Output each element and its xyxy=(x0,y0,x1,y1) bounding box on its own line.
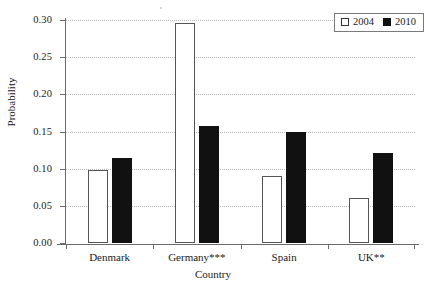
y-tick-label: 0.30 xyxy=(12,15,52,26)
legend-item-2010[interactable]: 2010 xyxy=(383,17,416,28)
y-tick-label: 0.15 xyxy=(12,127,52,138)
bar-Germany-2010 xyxy=(199,126,219,243)
gridline xyxy=(66,57,415,58)
y-tick-label: 0.25 xyxy=(12,52,52,63)
bar-Spain-2004 xyxy=(262,176,282,243)
y-tick-label: 0.05 xyxy=(12,201,52,212)
bar-UK-2004 xyxy=(349,198,369,243)
bar-Spain-2010 xyxy=(286,132,306,243)
y-axis-title: Probability xyxy=(5,47,17,157)
x-tick-mark xyxy=(328,244,329,249)
legend: 2004 2010 xyxy=(334,13,424,32)
bar-Denmark-2010 xyxy=(112,158,132,243)
legend-item-2004[interactable]: 2004 xyxy=(341,17,374,28)
legend-swatch-2004-icon xyxy=(341,18,349,26)
axis-line-bottom xyxy=(57,244,419,245)
gridline xyxy=(66,94,415,95)
x-tick-label: UK** xyxy=(311,251,426,264)
legend-label-2004: 2004 xyxy=(353,17,374,28)
y-tick-label: 0.20 xyxy=(12,89,52,100)
y-tick-label: 0.10 xyxy=(12,164,52,175)
gridline xyxy=(66,132,415,133)
x-tick-mark xyxy=(241,244,242,249)
x-tick-mark xyxy=(414,244,415,249)
legend-label-2010: 2010 xyxy=(395,17,416,28)
bar-UK-2010 xyxy=(373,153,393,243)
y-tick-label: 0.00 xyxy=(12,238,52,249)
x-tick-mark xyxy=(153,244,154,249)
bar-Denmark-2004 xyxy=(88,170,108,243)
bar-Germany-2004 xyxy=(175,23,195,243)
bar-chart: Probability 0.000.050.100.150.200.250.30… xyxy=(0,0,426,292)
scan-speck xyxy=(160,7,162,9)
x-tick-mark xyxy=(66,244,67,249)
x-axis-title: Country xyxy=(0,268,426,280)
plot-area xyxy=(66,20,415,243)
legend-swatch-2010-icon xyxy=(383,18,391,26)
